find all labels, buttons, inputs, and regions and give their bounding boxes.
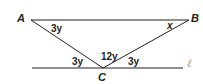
segment-ac	[31, 20, 103, 68]
angle-c-right-label: 3y	[128, 56, 140, 67]
triangle-diagram: A B C 3y x 3y 12y 3y ℓ	[0, 0, 203, 84]
vertex-label-b: B	[191, 12, 199, 24]
angle-c-left-label: 3y	[72, 56, 84, 67]
angle-c-top-label: 12y	[101, 51, 118, 62]
vertex-label-a: A	[16, 12, 25, 24]
angle-a-label: 3y	[51, 23, 63, 34]
vertex-label-c: C	[98, 71, 107, 83]
line-l-label: ℓ	[187, 57, 192, 69]
angle-b-label: x	[166, 20, 173, 31]
